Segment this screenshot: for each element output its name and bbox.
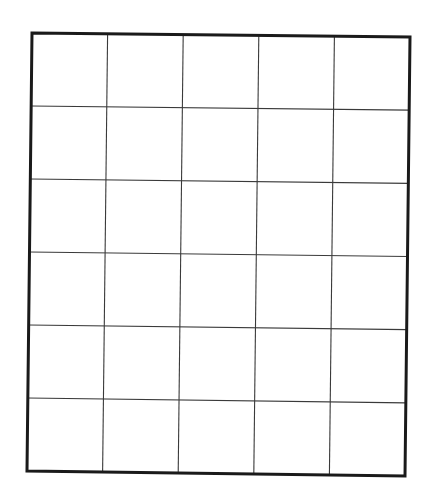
grid-inner-lines (28, 34, 409, 475)
grid-row-line (28, 398, 406, 403)
grid-row-line (29, 325, 407, 330)
grid-row-line (31, 106, 409, 110)
grid-row-line (30, 252, 408, 257)
empty-grid (0, 0, 426, 489)
grid-row-line (30, 179, 408, 183)
